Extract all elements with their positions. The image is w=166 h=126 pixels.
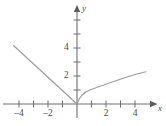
y-tick-label-4: 4 bbox=[64, 43, 69, 53]
x-tick-label-4: 4 bbox=[133, 109, 138, 119]
curve-right-branch bbox=[77, 72, 146, 104]
x-tick-label-2: 2 bbox=[104, 109, 109, 119]
plot-canvas bbox=[0, 0, 166, 126]
y-axis-arrowhead bbox=[74, 5, 80, 12]
x-axis-label: x bbox=[158, 104, 162, 113]
x-axis-arrowhead bbox=[150, 101, 158, 107]
x-tick-label-minus-4: –4 bbox=[14, 109, 24, 119]
graph-figure: y x –4 –2 2 4 2 4 bbox=[0, 0, 166, 126]
x-tick-label-minus-2: –2 bbox=[43, 109, 53, 119]
y-axis-label: y bbox=[82, 4, 86, 13]
y-tick-label-2: 2 bbox=[64, 71, 69, 81]
